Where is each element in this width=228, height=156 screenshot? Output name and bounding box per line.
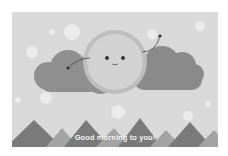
left-hand (66, 66, 69, 69)
sun (87, 34, 143, 90)
right-hand (158, 34, 161, 37)
illustration-frame: Good morning to you! (12, 12, 218, 147)
caption-text: Good morning to you! (12, 133, 218, 142)
morning-sun-scene (12, 12, 218, 147)
